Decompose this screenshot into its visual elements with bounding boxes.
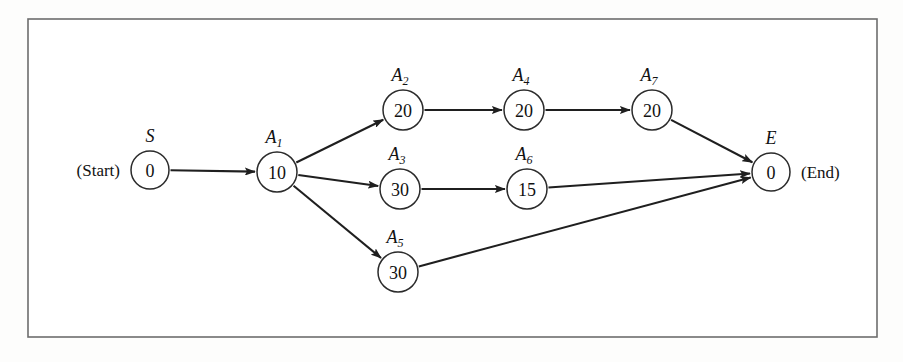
node-label-s: S bbox=[146, 126, 155, 146]
edge-s-to-a1 bbox=[170, 170, 255, 171]
node-value-e: 0 bbox=[767, 163, 776, 183]
network-diagram: 0S(Start)10A120A230A320A430A515A620A70E(… bbox=[0, 0, 903, 362]
node-value-a1: 10 bbox=[268, 163, 286, 183]
node-value-a5: 30 bbox=[389, 263, 407, 283]
start-caption: (Start) bbox=[77, 161, 120, 180]
node-value-a2: 20 bbox=[394, 101, 412, 121]
node-value-a4: 20 bbox=[515, 101, 533, 121]
node-label-e: E bbox=[765, 128, 777, 148]
node-value-s: 0 bbox=[146, 161, 155, 181]
node-value-a3: 30 bbox=[391, 180, 409, 200]
end-caption: (End) bbox=[801, 163, 840, 182]
figure-container: 0S(Start)10A120A230A320A430A515A620A70E(… bbox=[0, 0, 903, 362]
node-value-a7: 20 bbox=[643, 101, 661, 121]
node-value-a6: 15 bbox=[518, 180, 536, 200]
